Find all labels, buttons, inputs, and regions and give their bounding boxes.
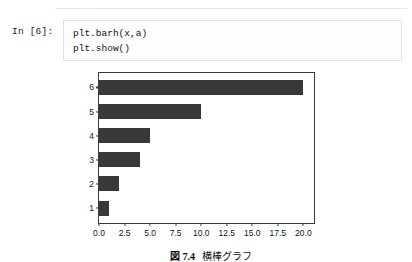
x-tick-mark: [252, 223, 253, 226]
x-tick-mark: [98, 223, 99, 226]
caption-number: 7.4: [183, 251, 196, 262]
y-tick-label: 4: [89, 131, 94, 141]
bar: [99, 152, 140, 167]
code-text: plt.barh(x,a) plt.show(): [73, 26, 147, 56]
figure-caption: 図 7.4横棒グラフ: [0, 237, 412, 262]
y-tick-mark: [96, 208, 99, 209]
plot-frame: 1234560.02.55.07.510.012.515.017.520.0: [98, 72, 315, 224]
x-tick-mark: [201, 223, 202, 226]
y-tick-mark: [96, 183, 99, 184]
plot-area: 1234560.02.55.07.510.012.515.017.520.0: [99, 73, 314, 223]
scan-edge-artifact: [55, 8, 407, 9]
caption-text: 横棒グラフ: [202, 251, 252, 262]
bar: [99, 104, 201, 119]
y-tick-mark: [96, 135, 99, 136]
y-tick-label: 5: [89, 107, 94, 117]
x-tick-mark: [150, 223, 151, 226]
x-tick-mark: [226, 223, 227, 226]
notebook-code-cell: In [6]: plt.barh(x,a) plt.show(): [10, 20, 402, 62]
x-tick-mark: [175, 223, 176, 226]
document-page: In [6]: plt.barh(x,a) plt.show() 1234560…: [0, 0, 412, 262]
bar: [99, 176, 119, 191]
y-tick-mark: [96, 159, 99, 160]
x-tick-mark: [303, 223, 304, 226]
bar: [99, 128, 150, 143]
bar: [99, 80, 303, 95]
chart-output: 1234560.02.55.07.510.012.515.017.520.0: [0, 66, 412, 226]
caption-figure-word: 図: [170, 251, 180, 262]
y-tick-mark: [96, 87, 99, 88]
x-tick-mark: [277, 223, 278, 226]
y-tick-label: 1: [89, 203, 94, 213]
bar: [99, 201, 109, 216]
y-tick-label: 3: [89, 155, 94, 165]
y-tick-label: 6: [89, 82, 94, 92]
cell-prompt-label: In [6]:: [12, 26, 53, 37]
y-tick-label: 2: [89, 179, 94, 189]
code-input-box[interactable]: plt.barh(x,a) plt.show(): [63, 20, 402, 61]
x-tick-mark: [124, 223, 125, 226]
y-tick-mark: [96, 111, 99, 112]
